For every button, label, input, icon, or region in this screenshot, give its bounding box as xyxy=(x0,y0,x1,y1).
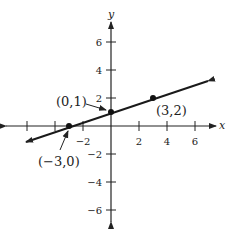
x-tick-label: 2 xyxy=(136,136,142,147)
point-label-3-2: (3,2) xyxy=(156,103,187,118)
y-tick-label: −2 xyxy=(87,149,102,160)
point-label-0-1: (0,1) xyxy=(56,94,87,109)
point-0-1 xyxy=(108,109,114,115)
y-tick-label: 4 xyxy=(96,65,102,76)
y-axis-label: y xyxy=(107,8,115,21)
x-tick-label: −2 xyxy=(76,136,91,147)
point-3-2 xyxy=(150,95,156,101)
y-tick-label: −6 xyxy=(87,205,102,216)
callout-arrow-0-1 xyxy=(86,104,106,110)
x-tick-label: 6 xyxy=(192,136,198,147)
y-tick-label: 6 xyxy=(96,37,102,48)
graph-svg: −2 2 4 6 6 4 2 −2 −4 −6 x y (0,1) (3,2) … xyxy=(0,0,233,229)
point-neg3-0 xyxy=(66,123,72,129)
x-tick-label: 4 xyxy=(164,136,170,147)
y-tick-label: 2 xyxy=(96,93,102,104)
y-tick-label: −4 xyxy=(87,177,102,188)
coordinate-plane: −2 2 4 6 6 4 2 −2 −4 −6 x y (0,1) (3,2) … xyxy=(0,0,233,229)
point-label-neg3-0: (−3,0) xyxy=(38,154,80,169)
x-axis-label: x xyxy=(219,119,226,132)
callout-arrow-neg3-0 xyxy=(60,131,68,150)
